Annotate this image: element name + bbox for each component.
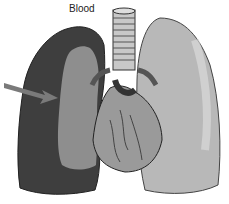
lung-illustration — [0, 0, 229, 204]
trachea — [113, 10, 135, 70]
